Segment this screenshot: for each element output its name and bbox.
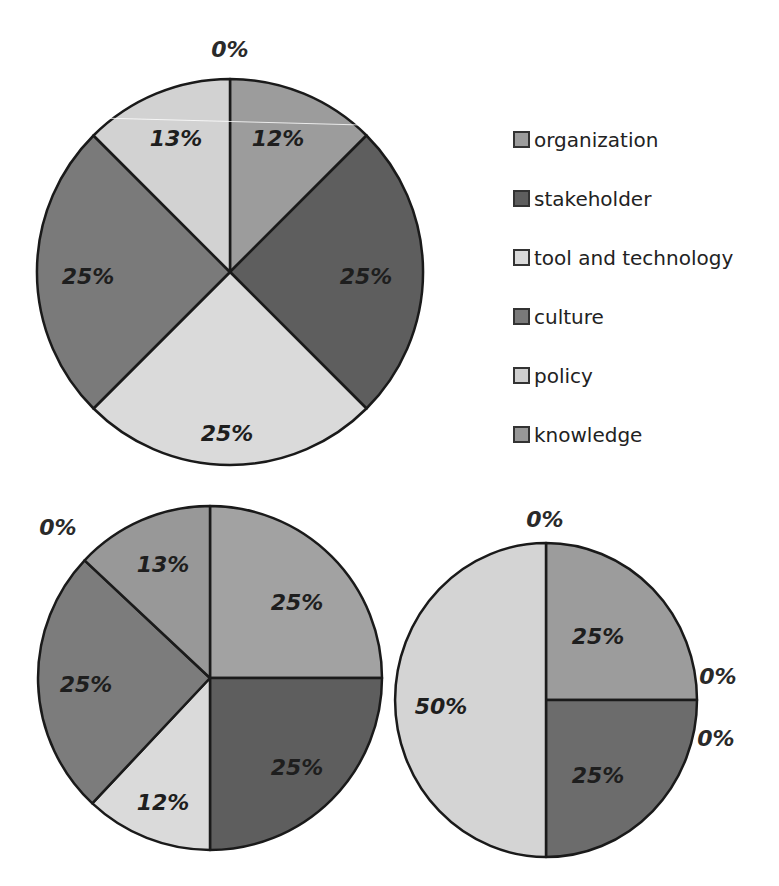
top-label-policy: 13% bbox=[150, 126, 203, 151]
legend-swatch-culture bbox=[513, 308, 530, 325]
legend-label: culture bbox=[534, 306, 604, 328]
top-label-organization: 12% bbox=[252, 126, 305, 151]
br-label-organization: 25% bbox=[572, 624, 625, 649]
bl-label-tool: 12% bbox=[137, 790, 190, 815]
bl-label-policy: 0% bbox=[39, 515, 76, 540]
legend-item-policy: policy bbox=[513, 346, 733, 405]
legend-item-knowledge: knowledge bbox=[513, 405, 733, 464]
br-label-stakeholder: 25% bbox=[572, 763, 625, 788]
br-label-tool: 0% bbox=[699, 664, 736, 689]
top-label-tool: 25% bbox=[201, 421, 254, 446]
legend-label: organization bbox=[534, 129, 658, 151]
legend-item-culture: culture bbox=[513, 287, 733, 346]
legend-item-tool-and-technology: tool and technology bbox=[513, 228, 733, 287]
legend-swatch-tool-and-technology bbox=[513, 249, 530, 266]
chart-legend: organization stakeholder tool and techno… bbox=[513, 110, 733, 464]
legend-swatch-organization bbox=[513, 131, 530, 148]
legend-swatch-stakeholder bbox=[513, 190, 530, 207]
legend-label: stakeholder bbox=[534, 188, 651, 210]
legend-item-organization: organization bbox=[513, 110, 733, 169]
bl-label-knowledge: 13% bbox=[137, 552, 190, 577]
legend-label: tool and technology bbox=[534, 247, 733, 269]
br-slice-organization bbox=[546, 543, 697, 700]
legend-swatch-knowledge bbox=[513, 426, 530, 443]
legend-label: knowledge bbox=[534, 424, 642, 446]
bl-label-culture: 25% bbox=[60, 672, 113, 697]
bl-label-organization: 25% bbox=[271, 590, 324, 615]
br-label-culture: 0% bbox=[697, 726, 734, 751]
top-label-knowledge: 0% bbox=[211, 37, 248, 62]
bl-label-stakeholder: 25% bbox=[271, 755, 324, 780]
legend-item-stakeholder: stakeholder bbox=[513, 169, 733, 228]
br-label-knowledge: 0% bbox=[526, 507, 563, 532]
legend-label: policy bbox=[534, 365, 593, 387]
legend-swatch-policy bbox=[513, 367, 530, 384]
top-label-stakeholder: 25% bbox=[340, 264, 393, 289]
br-label-policy: 50% bbox=[415, 694, 468, 719]
top-label-culture: 25% bbox=[62, 264, 115, 289]
